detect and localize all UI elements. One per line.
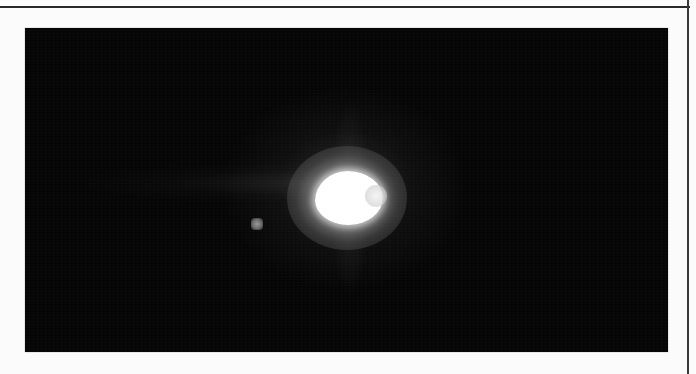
astronomical-image <box>25 28 668 352</box>
primary-star-extension <box>365 185 387 207</box>
right-rule-line <box>687 0 689 374</box>
top-rule-line <box>0 6 690 8</box>
companion-star <box>251 218 263 230</box>
